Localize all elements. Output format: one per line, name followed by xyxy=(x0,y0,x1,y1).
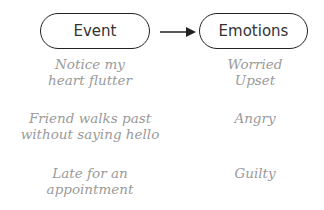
emotion-line: Upset xyxy=(200,72,310,88)
event-line: Friend walks past xyxy=(10,110,170,126)
emotion-line: Worried xyxy=(200,56,310,72)
emotion-entry-1: Worried Upset xyxy=(200,56,310,88)
event-label: Event xyxy=(74,22,117,40)
emotions-label: Emotions xyxy=(219,22,289,40)
emotion-entry-2: Angry xyxy=(200,110,310,126)
event-line: without saying hello xyxy=(10,126,170,142)
event-line: heart flutter xyxy=(10,72,170,88)
emotion-line: Guilty xyxy=(200,165,310,181)
emotion-line: Angry xyxy=(200,110,310,126)
event-node: Event xyxy=(40,13,150,49)
event-line: Late for an xyxy=(10,165,170,181)
event-entry-3: Late for an appointment xyxy=(10,165,170,197)
event-entry-2: Friend walks past without saying hello xyxy=(10,110,170,142)
arrow-right-icon xyxy=(160,25,196,39)
event-entry-1: Notice my heart flutter xyxy=(10,56,170,88)
event-line: Notice my xyxy=(10,56,170,72)
emotions-node: Emotions xyxy=(199,13,308,49)
emotion-entry-3: Guilty xyxy=(200,165,310,181)
event-line: appointment xyxy=(10,181,170,197)
